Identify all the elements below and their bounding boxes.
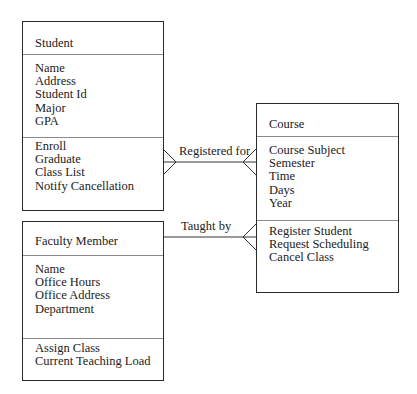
attribute: Student Id (35, 88, 87, 101)
operation: Class List (35, 166, 134, 179)
attributes-section: Course Subject Semester Time Days Year (257, 136, 398, 220)
class-name-section: Faculty Member (23, 222, 163, 255)
class-faculty-member[interactable]: Faculty Member Name Office Hours Office … (22, 221, 164, 381)
operations-section: Assign Class Current Teaching Load (23, 338, 163, 380)
class-title: Course (269, 117, 304, 132)
operation: Notify Cancellation (35, 180, 134, 193)
association-label-taught-by: Taught by (181, 219, 231, 234)
attribute: Office Address (35, 289, 110, 302)
attribute: Year (269, 197, 345, 210)
class-title: Faculty Member (35, 234, 118, 249)
attribute: Time (269, 170, 345, 183)
attribute: Major (35, 102, 87, 115)
attribute: Department (35, 303, 110, 316)
attribute: GPA (35, 115, 87, 128)
attributes-section: Name Office Hours Office Address Departm… (23, 255, 163, 338)
association-label-registered-for: Registered for (179, 144, 250, 159)
crows-foot-student (163, 149, 176, 162)
operation: Current Teaching Load (35, 355, 151, 368)
attribute: Days (269, 184, 345, 197)
class-name-section: Course (257, 104, 398, 136)
operation: Cancel Class (269, 251, 369, 264)
operations-section: Enroll Graduate Class List Notify Cancel… (23, 137, 163, 210)
class-course[interactable]: Course Course Subject Semester Time Days… (256, 103, 399, 293)
operations-section: Register Student Request Scheduling Canc… (257, 220, 398, 292)
crows-foot-course-taught (243, 224, 256, 237)
class-name-section: Student (23, 22, 163, 54)
class-student[interactable]: Student Name Address Student Id Major GP… (22, 21, 164, 211)
class-title: Student (35, 36, 73, 51)
attributes-section: Name Address Student Id Major GPA (23, 54, 163, 137)
